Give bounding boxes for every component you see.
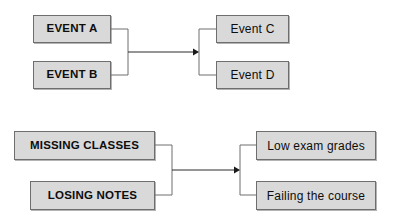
node-event-a[interactable]: EVENT A [33, 15, 111, 43]
diagram-canvas: EVENT A EVENT B Event C Event D MISSING … [0, 0, 397, 224]
merge-bracket-bottom-left [155, 145, 172, 195]
node-event-b[interactable]: EVENT B [33, 61, 111, 89]
node-label: EVENT B [46, 69, 97, 81]
arrow-right-icon-bottom-head [234, 167, 240, 174]
node-event-d[interactable]: Event D [216, 61, 289, 89]
split-bracket-bottom-right [240, 145, 256, 195]
node-low-exam-grades[interactable]: Low exam grades [256, 131, 376, 160]
node-label: Failing the course [267, 190, 365, 202]
node-label: Event D [230, 69, 274, 81]
split-bracket-top-right [199, 29, 216, 75]
node-missing-classes[interactable]: MISSING CLASSES [14, 131, 155, 160]
node-label: EVENT A [47, 23, 98, 35]
node-label: Event C [230, 23, 274, 35]
node-losing-notes[interactable]: LOSING NOTES [30, 181, 155, 210]
node-label: MISSING CLASSES [30, 140, 139, 152]
node-event-c[interactable]: Event C [216, 15, 289, 43]
node-label: LOSING NOTES [48, 190, 137, 202]
node-failing-the-course[interactable]: Failing the course [256, 181, 376, 210]
merge-bracket-top-left [111, 29, 128, 75]
arrow-right-icon-top-head [193, 49, 199, 56]
node-label: Low exam grades [267, 140, 365, 152]
